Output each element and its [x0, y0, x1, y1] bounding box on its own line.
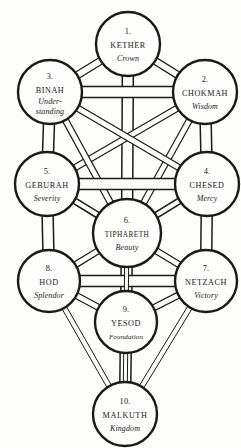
path-chokmah-binah: [79, 87, 176, 98]
sephirah-number-netzach: 7.: [203, 264, 209, 273]
sephirah-number-chesed: 4.: [204, 167, 210, 176]
sephirah-number-tiphareth: 6.: [124, 216, 130, 225]
sephirah-number-yesod: 9.: [123, 305, 129, 314]
sephirah-name-hod: Hod: [39, 278, 58, 287]
sephirah-name-chokmah: Chokmah: [182, 89, 228, 98]
path-chesed-netzach: [201, 213, 212, 253]
sephirah-name-chesed: Chesed: [189, 181, 224, 190]
sephirah-meaning-netzach: Victory: [194, 291, 218, 300]
sephirah-number-malkuth: 10.: [120, 397, 131, 406]
sephirah-name-malkuth: Malkuth: [103, 411, 148, 420]
sephirah-meaning-binah: Under-: [38, 97, 62, 106]
sephirah-meaning-kether: Crown: [117, 54, 139, 63]
sephirah-meaning-geburah: Severity: [34, 194, 61, 203]
sephirah-meaning-hod: Splendor: [34, 291, 64, 300]
sephirah-number-kether: 1.: [125, 27, 131, 36]
sephirah-number-hod: 8.: [46, 264, 52, 273]
sephirah-name-kether: Kether: [110, 41, 146, 50]
sephirah-meaning-tiphareth: Beauty: [116, 243, 139, 252]
sephirah-name-binah: Binah: [36, 86, 65, 95]
sephirah-meaning-malkuth: Kingdom: [109, 424, 140, 433]
tree-of-life-diagram: 1.KetherCrown2.ChokmahWisdom3.BinahUnder…: [0, 0, 241, 448]
sephirah-number-binah: 3.: [47, 72, 53, 81]
sephirah-name-geburah: Geburah: [25, 181, 68, 190]
path-geburah-hod: [42, 213, 54, 253]
sephirah-meaning-chesed: Mercy: [196, 194, 218, 203]
path-binah-geburah: [42, 121, 54, 155]
path-chokmah-chesed: [200, 121, 212, 155]
sephirah-name-yesod: Yesod: [111, 319, 141, 328]
sephirah-number-geburah: 5.: [44, 167, 50, 176]
sephirah-meaning-chokmah: Wisdom: [192, 102, 218, 111]
path-chesed-geburah: [76, 179, 178, 190]
sephirah-number-chokmah: 2.: [202, 75, 208, 84]
sephirah-name-netzach: Netzach: [185, 278, 227, 287]
sephirah-meaning2-binah: standing: [36, 107, 64, 116]
sephirah-name-tiphareth: Tiphareth: [105, 230, 150, 239]
sephirah-meaning-yesod: Foundation: [108, 333, 143, 341]
tree-of-life-svg: 1.KetherCrown2.ChokmahWisdom3.BinahUnder…: [0, 0, 241, 448]
